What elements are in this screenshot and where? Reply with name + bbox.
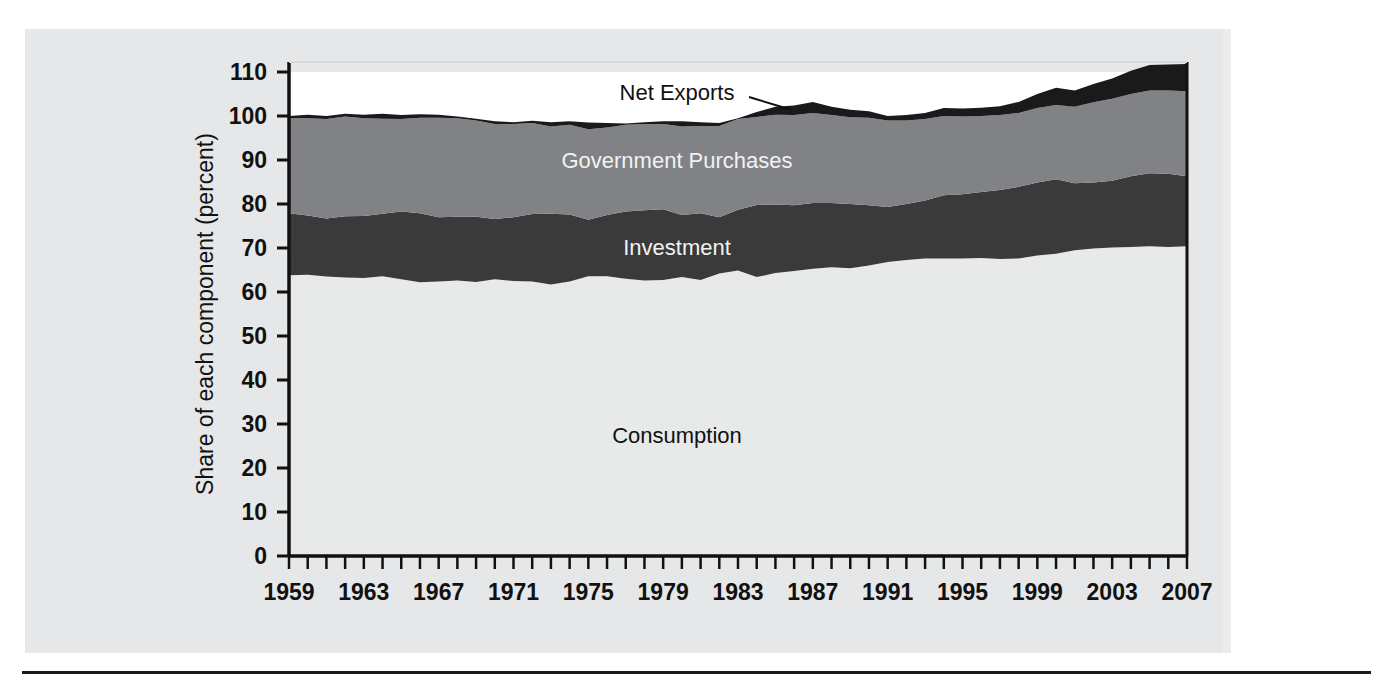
bottom-divider-rule: [22, 671, 1371, 674]
x-tick-label: 1979: [638, 579, 689, 605]
x-tick-label: 1963: [338, 579, 389, 605]
x-tick-label: 1987: [787, 579, 838, 605]
x-tick-label: 1995: [937, 579, 988, 605]
y-axis-title: Share of each component (percent): [192, 133, 218, 495]
y-axis-tick-labels: 0102030405060708090100110: [229, 59, 267, 569]
x-axis-tick-labels: 1959196319671971197519791983198719911995…: [263, 579, 1212, 605]
series-label-government-purchases: Government Purchases: [561, 148, 792, 173]
area-series-group: [289, 64, 1187, 556]
stacked-area-chart: 0102030405060708090100110 19591963196719…: [0, 0, 1396, 686]
area-series-consumption: [289, 246, 1187, 556]
y-tick-label: 80: [241, 191, 267, 217]
y-tick-label: 30: [241, 411, 267, 437]
x-tick-label: 1959: [263, 579, 314, 605]
y-tick-label: 40: [241, 367, 267, 393]
x-tick-label: 2007: [1161, 579, 1212, 605]
figure-page: 0102030405060708090100110 19591963196719…: [0, 0, 1396, 686]
x-tick-label: 1991: [862, 579, 913, 605]
y-tick-label: 0: [254, 543, 267, 569]
y-tick-label: 110: [230, 59, 267, 85]
y-tick-label: 50: [241, 323, 267, 349]
x-tick-label: 2003: [1087, 579, 1138, 605]
x-tick-label: 1967: [413, 579, 464, 605]
x-axis-ticks: [289, 556, 1187, 569]
y-tick-label: 100: [229, 103, 267, 129]
y-axis-title-group: Share of each component (percent): [192, 133, 218, 495]
series-label-net-exports: Net Exports: [620, 80, 735, 105]
y-tick-label: 20: [241, 455, 267, 481]
x-tick-label: 1971: [488, 579, 539, 605]
series-label-investment: Investment: [623, 235, 731, 260]
x-tick-label: 1975: [563, 579, 614, 605]
y-tick-label: 10: [241, 499, 267, 525]
y-axis-ticks: [277, 72, 289, 556]
y-tick-label: 60: [241, 279, 267, 305]
y-tick-label: 90: [241, 147, 267, 173]
series-label-consumption: Consumption: [612, 423, 742, 448]
x-tick-label: 1999: [1012, 579, 1063, 605]
x-tick-label: 1983: [712, 579, 763, 605]
y-tick-label: 70: [241, 235, 267, 261]
